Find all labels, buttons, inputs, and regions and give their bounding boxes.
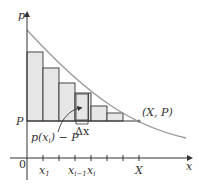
origin-label: 0: [19, 158, 26, 171]
consumer-surplus-diagram: p x 0 P (X, P) x1 xi−1 xi X p(xi) − P Δx: [0, 0, 199, 190]
p-level-label: P: [15, 115, 24, 128]
tick-label-x1: x1: [39, 164, 50, 178]
rectangle-6: [107, 113, 123, 121]
rectangle-2: [43, 68, 59, 121]
riemann-rectangles: [27, 52, 123, 121]
rectangle-5: [91, 106, 107, 121]
tick-label-xi: xi: [87, 164, 95, 178]
height-annotation: p(xi) − P: [31, 131, 79, 145]
equilibrium-point: [137, 119, 140, 122]
y-axis-label: p: [18, 9, 25, 22]
point-label: (X, P): [142, 106, 173, 119]
x-axis-label: x: [186, 160, 193, 173]
tick-label-X: X: [134, 164, 144, 177]
width-annotation: Δx: [75, 125, 90, 138]
rectangle-1: [27, 52, 43, 121]
tick-label-xi-1: xi−1: [68, 164, 87, 178]
